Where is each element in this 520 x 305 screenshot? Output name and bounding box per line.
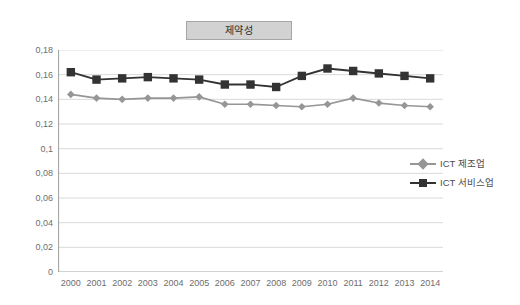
x-axis-tick-label: 2004 (163, 279, 183, 288)
x-axis-tick-label: 2011 (343, 279, 362, 288)
square-marker-icon (419, 179, 427, 187)
legend-item-label: ICT 제조업 (440, 159, 485, 169)
chart-container: 제약성 0,180,160,140,120,10,080,060,040,020… (0, 0, 520, 305)
y-axis-tick-label: 0,18 (13, 46, 53, 55)
data-point-marker (400, 72, 408, 80)
x-axis-tick-label: 2014 (420, 279, 440, 288)
data-point-marker (221, 100, 229, 108)
legend-item-1[interactable]: ICT 제조업 (410, 155, 518, 172)
page-title: 제약성 (225, 26, 253, 36)
data-point-marker (169, 74, 177, 82)
x-axis-tick-label: 2006 (215, 279, 235, 288)
data-point-marker (195, 75, 203, 83)
data-point-marker (67, 91, 75, 99)
data-point-marker (67, 68, 75, 76)
data-point-marker (221, 80, 229, 88)
diamond-marker-icon (417, 158, 428, 169)
x-axis-tick-label: 2013 (394, 279, 414, 288)
y-axis-tick-label: 0,08 (13, 169, 53, 178)
legend-item-2[interactable]: ICT 서비스업 (410, 174, 518, 191)
plot-svg (58, 50, 443, 272)
y-axis-tick-label: 0,04 (13, 218, 53, 227)
x-axis-tick-label: 2002 (112, 279, 132, 288)
data-point-marker (118, 96, 126, 104)
y-axis-tick-label: 0,1 (13, 144, 53, 153)
plot-area (58, 50, 443, 272)
data-point-marker (349, 67, 357, 75)
data-point-marker (375, 69, 383, 77)
x-axis-tick-label: 2005 (189, 279, 209, 288)
data-point-marker (349, 94, 357, 102)
data-point-marker (93, 94, 101, 102)
y-axis-tick-label: 0 (13, 268, 53, 277)
x-axis-labels: 2000200120022003200420052006200720082009… (58, 279, 443, 295)
data-point-marker (118, 74, 126, 82)
x-axis-tick-label: 2012 (369, 279, 389, 288)
y-axis-tick-label: 0,02 (13, 243, 53, 252)
legend-marker-icon (410, 177, 436, 189)
chart-title-box: 제약성 (186, 21, 292, 40)
data-point-marker (144, 73, 152, 81)
data-point-marker (144, 94, 152, 102)
x-axis-tick-label: 2009 (292, 279, 312, 288)
chart-legend: ICT 제조업ICT 서비스업 (410, 155, 518, 193)
x-axis-tick-label: 2003 (138, 279, 158, 288)
data-point-marker (323, 64, 331, 72)
x-axis-tick-label: 2000 (61, 279, 81, 288)
data-point-marker (247, 100, 255, 108)
data-point-marker (298, 72, 306, 80)
data-point-marker (170, 94, 178, 102)
y-axis-tick-label: 0,16 (13, 70, 53, 79)
legend-item-label: ICT 서비스업 (440, 178, 494, 188)
y-axis-tick-label: 0,12 (13, 120, 53, 129)
data-point-marker (272, 102, 280, 110)
x-axis-tick-label: 2010 (317, 279, 337, 288)
x-axis-tick-label: 2001 (86, 279, 106, 288)
data-point-marker (375, 99, 383, 107)
data-point-marker (401, 102, 409, 110)
data-point-marker (426, 74, 434, 82)
x-axis-tick-label: 2007 (240, 279, 260, 288)
legend-marker-icon (410, 158, 436, 170)
data-point-marker (246, 80, 254, 88)
data-point-marker (92, 75, 100, 83)
data-point-marker (272, 83, 280, 91)
data-point-marker (298, 103, 306, 111)
data-point-marker (426, 103, 434, 111)
y-axis-tick-label: 0,06 (13, 194, 53, 203)
x-axis-tick-label: 2008 (266, 279, 286, 288)
y-axis-tick-label: 0,14 (13, 95, 53, 104)
data-point-marker (324, 100, 332, 108)
y-axis-labels: 0,180,160,140,120,10,080,060,040,020 (9, 50, 53, 272)
